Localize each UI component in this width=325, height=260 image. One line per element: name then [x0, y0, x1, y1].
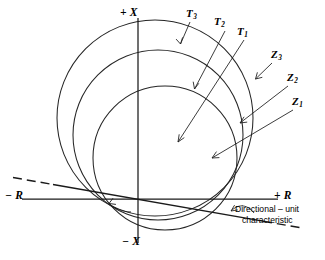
zone-impedance-label-z2: Z2 — [287, 72, 298, 85]
t1-subscript: 1 — [244, 31, 248, 39]
axis-label-r-positive: + R — [274, 190, 292, 202]
zone-impedance-label-z3: Z3 — [271, 49, 282, 62]
arrow-t3-head — [176, 37, 183, 44]
directional-unit-caption-line2: characteristic — [242, 215, 293, 225]
zone-impedance-label-z1: Z1 — [292, 96, 303, 109]
z2-base: Z — [287, 71, 294, 83]
origin-tangency-leader — [109, 198, 131, 212]
arrow-z1-head — [212, 152, 219, 158]
z2-subscript: 2 — [294, 77, 298, 85]
zone-time-label-t1: T1 — [237, 26, 248, 39]
t3-base: T — [186, 7, 193, 19]
z1-base: Z — [292, 95, 299, 107]
z3-subscript: 3 — [278, 54, 282, 62]
zone-time-label-t2: T2 — [214, 16, 225, 29]
arrow-t1-head — [178, 134, 184, 142]
t1-base: T — [237, 25, 244, 37]
zone-circle-z3 — [57, 20, 253, 216]
rx-diagram: + X − X + R − R T3 T2 T1 Z3 Z2 Z1 Direct… — [0, 0, 325, 260]
zone-time-label-t3: T3 — [186, 8, 197, 21]
directional-dash-left — [13, 178, 53, 185]
zone-circle-z2 — [73, 50, 243, 220]
directional-unit-caption-line1: Directional – unit — [235, 204, 299, 214]
t2-base: T — [214, 15, 221, 27]
t3-subscript: 3 — [193, 13, 197, 21]
z3-base: Z — [271, 48, 278, 60]
axis-label-r-negative: − R — [5, 190, 23, 202]
z1-subscript: 1 — [299, 101, 303, 109]
axis-label-x-negative: − X — [122, 236, 140, 248]
t2-subscript: 2 — [221, 21, 225, 29]
arrow-z3-shaft — [256, 63, 273, 79]
axis-label-x-positive: + X — [120, 7, 138, 19]
time-label-arrows — [176, 22, 244, 142]
